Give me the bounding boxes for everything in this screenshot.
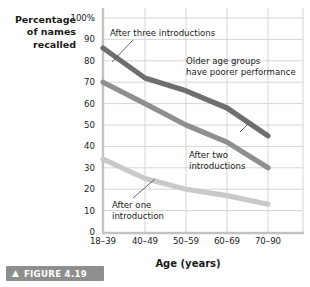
- x-tick-label: 70–90: [245, 236, 291, 246]
- x-tick-label: 50–59: [163, 236, 209, 246]
- grid-lines-vertical: [145, 8, 303, 232]
- x-tick-label: 60–69: [204, 236, 250, 246]
- chevron-up-icon: ▲: [12, 269, 19, 278]
- annotation-after-two-introductions: After two introductions: [189, 150, 245, 171]
- x-axis-title: Age (years): [103, 258, 273, 269]
- annotation-after-three-introductions: After three introductions: [110, 28, 215, 39]
- figure-caption-label: FIGURE 4.19: [24, 269, 87, 279]
- figure-caption-bar: ▲ FIGURE 4.19: [6, 266, 104, 281]
- annotation-older-age-groups: Older age groups have poorer performance: [186, 56, 296, 77]
- x-tick-label: 40–49: [122, 236, 168, 246]
- annotation-after-one-introduction: After one introduction: [112, 200, 164, 221]
- x-tick-label: 18–39: [80, 236, 126, 246]
- grid-lines-horizontal: [103, 18, 303, 211]
- figure-container: Percentage of names recalled 100% 90 80 …: [0, 0, 310, 287]
